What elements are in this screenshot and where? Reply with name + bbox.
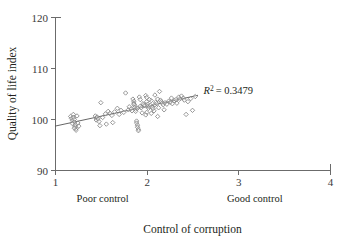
axis-range-label-poor-control: Poor control bbox=[77, 193, 129, 204]
data-point bbox=[153, 93, 157, 97]
data-point bbox=[193, 94, 197, 98]
x-axis-title: Control of corruption bbox=[143, 223, 242, 236]
data-point bbox=[190, 108, 194, 112]
data-point bbox=[157, 89, 161, 93]
x-axis-tick-label: 2 bbox=[144, 176, 150, 188]
y-axis-tick-label: 110 bbox=[32, 63, 49, 75]
annotation-r-exponent: 2 bbox=[210, 84, 214, 93]
y-axis-title: Quality of life index bbox=[6, 46, 19, 140]
data-point bbox=[155, 114, 159, 118]
data-point bbox=[98, 123, 102, 127]
y-axis-tick-label: 120 bbox=[32, 12, 49, 24]
x-axis-tick-label: 3 bbox=[236, 176, 242, 188]
data-point bbox=[156, 106, 160, 110]
y-axis-tick-label: 100 bbox=[32, 114, 49, 126]
data-point bbox=[104, 122, 108, 126]
y-axis-tick-label: 90 bbox=[37, 165, 49, 177]
annotation-r-squared: R2= 0.3479 bbox=[203, 84, 254, 97]
x-axis-tick-label: 4 bbox=[328, 176, 334, 188]
scatter-chart-figure: 901001101201234 Quality of life indexCon… bbox=[0, 0, 354, 240]
axis-range-label-good-control: Good control bbox=[227, 193, 283, 204]
data-point bbox=[162, 108, 166, 112]
data-points-group bbox=[68, 89, 197, 133]
chart-canvas: 901001101201234 Quality of life indexCon… bbox=[0, 0, 354, 240]
labels-group: Quality of life indexControl of corrupti… bbox=[6, 46, 283, 236]
data-point bbox=[111, 120, 115, 124]
data-point bbox=[123, 91, 127, 95]
data-point bbox=[99, 100, 103, 104]
data-point bbox=[184, 112, 188, 116]
annotation-r-value: = 0.3479 bbox=[216, 85, 253, 96]
x-axis-tick-label: 1 bbox=[53, 176, 59, 188]
